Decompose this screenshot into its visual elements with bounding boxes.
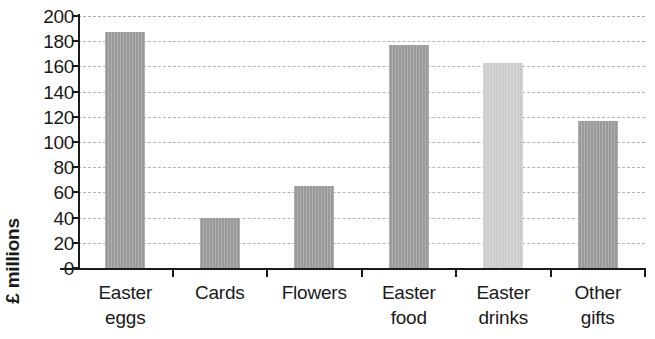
bar <box>105 32 145 268</box>
gridline <box>78 218 645 219</box>
y-axis-tick-mark <box>72 15 79 17</box>
gridline <box>78 117 645 118</box>
x-axis-tick-mark <box>266 268 268 277</box>
y-axis-title: £ millions <box>0 0 26 272</box>
y-axis-tick-mark <box>72 267 79 269</box>
bar <box>389 45 429 268</box>
gridline <box>78 66 645 67</box>
y-axis-tick-label: 20 <box>26 233 74 252</box>
gridline <box>78 92 645 93</box>
x-axis-line <box>60 268 645 270</box>
y-axis-tick-label: 60 <box>26 183 74 202</box>
x-axis-tick-mark <box>172 268 174 277</box>
bar-chart: £ millions 200180160140120100806040200 E… <box>0 0 655 339</box>
y-axis-tick-mark <box>72 191 79 193</box>
y-axis-tick-mark <box>72 242 79 244</box>
y-axis-tick-label: 160 <box>26 57 74 76</box>
y-axis-tick-mark <box>72 217 79 219</box>
x-axis-tick-mark <box>550 268 552 277</box>
y-axis-tick-mark <box>72 116 79 118</box>
y-axis-tick-label: 100 <box>26 133 74 152</box>
x-axis-tick-mark <box>361 268 363 277</box>
x-axis-category-label: Eastereggs <box>78 280 173 330</box>
y-axis-title-text: £ millions <box>2 218 24 304</box>
y-axis-tick-label: 40 <box>26 208 74 227</box>
gridline <box>78 16 645 17</box>
gridline <box>78 243 645 244</box>
x-axis-category-labels: EastereggsCardsFlowersEasterfoodEasterdr… <box>78 280 645 339</box>
y-axis-tick-label: 80 <box>26 158 74 177</box>
x-axis-category-label: Cards <box>173 280 268 305</box>
gridline <box>78 142 645 143</box>
x-axis-category-label: Flowers <box>267 280 362 305</box>
y-axis-tick-label: 200 <box>26 7 74 26</box>
bar <box>294 186 334 268</box>
y-axis-tick-label: 180 <box>26 32 74 51</box>
y-axis-tick-mark <box>72 141 79 143</box>
x-axis-tick-mark <box>644 268 646 277</box>
x-axis-category-label: Othergifts <box>551 280 646 330</box>
y-axis-tick-labels: 200180160140120100806040200 <box>26 0 74 285</box>
plot-area <box>78 16 645 268</box>
y-axis-tick-mark <box>72 91 79 93</box>
x-axis-category-label: Easterfood <box>362 280 457 330</box>
x-axis-category-label: Easterdrinks <box>456 280 551 330</box>
gridline <box>78 41 645 42</box>
y-axis-tick-label: 140 <box>26 82 74 101</box>
y-axis-tick-mark <box>72 166 79 168</box>
y-axis-tick-mark <box>72 40 79 42</box>
bar <box>200 218 240 268</box>
gridline <box>78 192 645 193</box>
gridline <box>78 167 645 168</box>
x-axis-tick-mark <box>455 268 457 277</box>
y-axis-tick-label: 120 <box>26 107 74 126</box>
bar <box>578 121 618 268</box>
bar <box>483 63 523 268</box>
y-axis-tick-mark <box>72 65 79 67</box>
